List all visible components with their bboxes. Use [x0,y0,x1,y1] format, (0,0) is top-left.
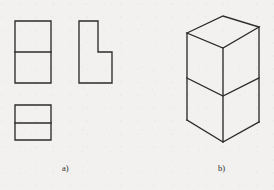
side-view [79,21,112,83]
side-view-outline [79,21,112,83]
figure-root: a) b) [0,0,274,190]
orthographic-views-group [15,21,112,140]
technical-drawing-canvas [0,0,274,190]
isometric-top-face [187,16,259,48]
top-view [15,105,51,140]
panel-b-caption: b) [218,163,225,173]
panel-a-caption: a) [62,163,69,173]
front-view [15,21,51,83]
isometric-view-group [187,16,259,142]
